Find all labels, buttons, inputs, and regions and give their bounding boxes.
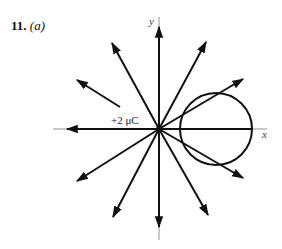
point-charge-dot xyxy=(156,126,162,132)
figure-canvas: 11. (a) xyxy=(0,0,282,249)
field-line-down-right-shallow xyxy=(159,129,243,178)
y-axis-label: y xyxy=(149,15,154,27)
field-line-down-left-steep xyxy=(113,129,159,217)
field-line-down-right-steep xyxy=(159,129,208,215)
field-line-up-left-shallow xyxy=(77,80,120,107)
field-line-down-left-shallow xyxy=(77,129,159,181)
charge-label: +2 μC xyxy=(111,114,139,126)
x-axis-label: x xyxy=(262,128,267,140)
field-diagram xyxy=(0,0,282,249)
